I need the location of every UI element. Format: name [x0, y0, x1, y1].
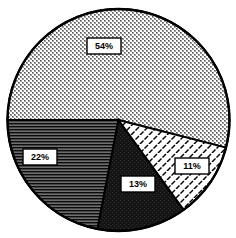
pie-chart-container: 54% 22% 13% 11% [0, 0, 236, 238]
pie-label-13-text: 13% [129, 179, 147, 189]
pie-label-22: 22% [23, 149, 57, 165]
pie-label-22-text: 22% [31, 152, 49, 162]
pie-label-54: 54% [87, 38, 121, 54]
pie-label-11-text: 11% [183, 161, 201, 171]
pie-chart-svg: 54% 22% 13% 11% [0, 0, 236, 238]
pie-label-11: 11% [175, 158, 209, 174]
pie-label-54-text: 54% [95, 41, 113, 51]
pie-label-13: 13% [121, 176, 155, 192]
